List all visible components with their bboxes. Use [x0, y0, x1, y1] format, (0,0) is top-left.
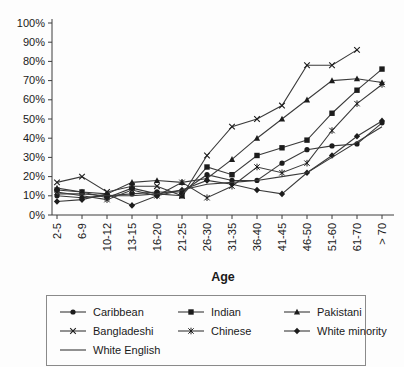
- x-axis-title: Age: [211, 270, 235, 284]
- series-line: [57, 123, 382, 198]
- series-line: [57, 127, 382, 196]
- x-tick-label: 26-30: [201, 223, 213, 251]
- square-marker-icon: [254, 153, 259, 158]
- x-marker-icon: [254, 116, 260, 122]
- y-tick-label: 0%: [29, 209, 45, 221]
- legend-label: Caribbean: [93, 306, 144, 318]
- legend-item-pakistani: Pakistani: [283, 303, 387, 320]
- square-marker-icon: [354, 88, 359, 93]
- x-tick-label: 16-20: [151, 223, 163, 251]
- legend-label: White minority: [317, 325, 387, 337]
- y-tick-label: 50%: [23, 113, 45, 125]
- diamond-marker-icon: [204, 177, 210, 184]
- y-tick-label: 70%: [23, 74, 45, 86]
- diamond-marker-icon: [254, 187, 260, 194]
- legend-key: [283, 326, 311, 336]
- y-tick-label: 90%: [23, 36, 45, 48]
- x-tick-label: 2-5: [51, 223, 63, 239]
- y-axis: 0%10%20%30%40%50%60%70%80%90%100%: [17, 17, 52, 221]
- circle-marker-icon: [329, 143, 334, 148]
- series-indian: [54, 66, 384, 200]
- x-tick-label: 41-45: [276, 223, 288, 251]
- legend-item-chinese: Chinese: [177, 322, 283, 339]
- legend-key: [59, 326, 87, 336]
- series-pakistani: [54, 75, 385, 196]
- x-tick-label: > 70: [376, 223, 388, 245]
- y-tick-label: 10%: [23, 189, 45, 201]
- square-marker-icon: [188, 309, 193, 314]
- legend-key: [59, 345, 87, 355]
- series-caribbean: [54, 120, 384, 200]
- circle-marker-icon: [304, 147, 309, 152]
- chart-legend: CaribbeanIndianPakistaniBangladeshiChine…: [46, 295, 366, 366]
- x-tick-label: 46-50: [301, 223, 313, 251]
- square-marker-icon: [229, 172, 234, 177]
- legend-label: Pakistani: [317, 306, 362, 318]
- legend-item-white-english: White English: [59, 341, 177, 358]
- square-marker-icon: [204, 164, 209, 169]
- x-tick-label: 51-60: [326, 223, 338, 251]
- diamond-marker-icon: [54, 198, 60, 205]
- y-tick-label: 20%: [23, 170, 45, 182]
- triangle-marker-icon: [279, 116, 285, 122]
- square-marker-icon: [304, 137, 309, 142]
- x-marker-icon: [279, 103, 285, 109]
- triangle-marker-icon: [254, 135, 260, 141]
- x-marker-icon: [354, 47, 360, 53]
- asterisk-marker-icon: [329, 127, 334, 134]
- legend-item-bangladeshi: Bangladeshi: [59, 322, 177, 339]
- square-marker-icon: [329, 111, 334, 116]
- legend-key: [177, 326, 205, 336]
- x-tick-label: 6-9: [76, 223, 88, 239]
- y-tick-label: 60%: [23, 93, 45, 105]
- chart-figure: 0%10%20%30%40%50%60%70%80%90%100%2-56-91…: [0, 0, 404, 367]
- asterisk-marker-icon: [354, 100, 359, 107]
- legend-label: Bangladeshi: [93, 325, 154, 337]
- y-tick-label: 30%: [23, 151, 45, 163]
- x-axis: 2-56-910-1213-1516-2021-2526-3031-3536-4…: [51, 215, 388, 251]
- legend-label: Indian: [211, 306, 241, 318]
- legend-item-caribbean: Caribbean: [59, 303, 177, 320]
- y-tick-label: 80%: [23, 55, 45, 67]
- legend-key: [59, 307, 87, 317]
- diamond-marker-icon: [129, 202, 135, 209]
- x-tick-label: 10-12: [101, 223, 113, 251]
- y-tick-label: 40%: [23, 132, 45, 144]
- square-marker-icon: [279, 145, 284, 150]
- legend-item-white-minority: White minority: [283, 322, 387, 339]
- circle-marker-icon: [70, 309, 75, 314]
- series-white-english: [57, 127, 382, 196]
- x-tick-label: 21-25: [176, 223, 188, 251]
- series-line: [57, 69, 382, 198]
- circle-marker-icon: [279, 161, 284, 166]
- series-chinese: [54, 81, 384, 203]
- legend-item-indian: Indian: [177, 303, 283, 320]
- axes: [52, 19, 394, 215]
- asterisk-marker-icon: [304, 160, 309, 167]
- diamond-marker-icon: [294, 327, 300, 334]
- square-marker-icon: [379, 66, 384, 71]
- legend-label: Chinese: [211, 325, 251, 337]
- x-tick-label: 36-40: [251, 223, 263, 251]
- x-tick-label: 13-15: [126, 223, 138, 251]
- x-marker-icon: [229, 124, 235, 130]
- x-marker-icon: [204, 153, 210, 159]
- series-line: [57, 79, 382, 194]
- x-tick-label: 61-70: [351, 223, 363, 251]
- legend-key: [283, 307, 311, 317]
- y-tick-label: 100%: [17, 17, 45, 29]
- asterisk-marker-icon: [204, 194, 209, 201]
- line-chart: 0%10%20%30%40%50%60%70%80%90%100%2-56-91…: [0, 0, 404, 292]
- legend-key: [177, 307, 205, 317]
- triangle-marker-icon: [304, 97, 310, 103]
- x-tick-label: 31-35: [226, 223, 238, 251]
- legend-label: White English: [93, 344, 160, 356]
